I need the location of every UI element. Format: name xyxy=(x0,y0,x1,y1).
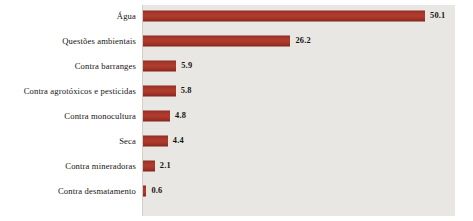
bar-row: Seca 4.4 xyxy=(0,128,473,153)
bar-track: 5.8 xyxy=(143,85,453,96)
bar-rect xyxy=(143,35,290,46)
bar-value-label: 5.9 xyxy=(181,61,192,70)
bar-row: Contra desmatamento 0.6 xyxy=(0,178,473,203)
bar-rect xyxy=(143,160,155,171)
bar-value-label: 5.8 xyxy=(181,86,192,95)
bar-value-label: 4.8 xyxy=(175,111,186,120)
bar-track: 4.4 xyxy=(143,135,453,146)
bar-rect xyxy=(143,185,146,196)
bar-value-label: 2.1 xyxy=(160,161,171,170)
category-label: Contra desmatamento xyxy=(58,186,136,196)
bar-row: Contra monocultura 4.8 xyxy=(0,103,473,128)
bar-track: 5.9 xyxy=(143,60,453,71)
bar-value-label: 4.4 xyxy=(173,136,184,145)
category-label: Contra mineradoras xyxy=(65,161,136,171)
category-label: Contra monocultura xyxy=(64,111,136,121)
bar-row: Questões ambientais 26.2 xyxy=(0,28,473,53)
category-label: Água xyxy=(117,11,136,21)
category-label: Contra barranges xyxy=(75,61,136,71)
bar-value-label: 50.1 xyxy=(430,11,445,20)
bar-value-label: 0.6 xyxy=(151,186,162,195)
bar-track: 50.1 xyxy=(143,10,453,21)
bar-track: 26.2 xyxy=(143,35,453,46)
bar-row: Contra barranges 5.9 xyxy=(0,53,473,78)
bar-rect xyxy=(143,10,425,21)
bar-chart-figure: Água 50.1 Questões ambientais 26.2 Contr… xyxy=(0,0,473,221)
category-label: Questões ambientais xyxy=(62,36,136,46)
bar-track: 0.6 xyxy=(143,185,453,196)
bar-series: Água 50.1 Questões ambientais 26.2 Contr… xyxy=(0,0,473,221)
bar-row: Água 50.1 xyxy=(0,3,473,28)
category-label: Seca xyxy=(119,136,136,146)
bar-value-label: 26.2 xyxy=(295,36,310,45)
bar-rect xyxy=(143,135,168,146)
bar-rect xyxy=(143,110,170,121)
bar-track: 2.1 xyxy=(143,160,453,171)
bar-rect xyxy=(143,60,176,71)
category-label: Contra agrotóxicos e pesticidas xyxy=(24,86,136,96)
bar-rect xyxy=(143,85,176,96)
bar-row: Contra mineradoras 2.1 xyxy=(0,153,473,178)
bar-track: 4.8 xyxy=(143,110,453,121)
bar-row: Contra agrotóxicos e pesticidas 5.8 xyxy=(0,78,473,103)
